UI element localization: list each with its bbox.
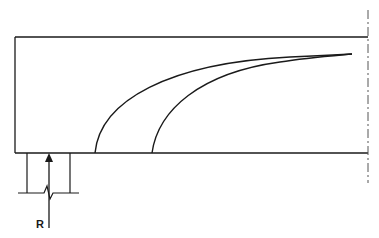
crack-2 — [152, 54, 352, 153]
crack-1 — [95, 54, 352, 153]
reaction-label: R — [36, 218, 44, 230]
reaction-arrow — [45, 153, 53, 228]
cracks — [95, 54, 352, 153]
arrow-up-icon — [45, 153, 53, 162]
beam-diagram: R — [0, 0, 379, 238]
beam — [15, 37, 368, 153]
